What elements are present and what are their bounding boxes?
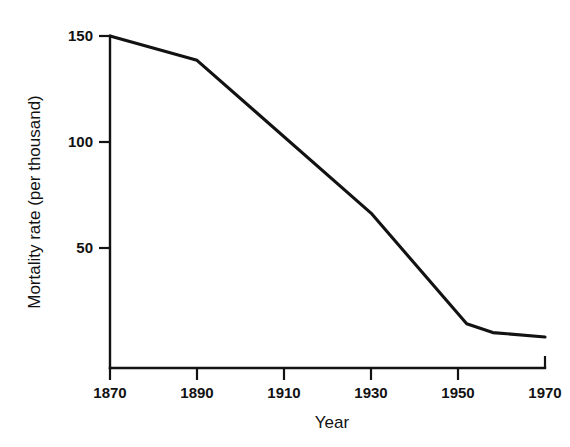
x-tick-label-1950: 1950 [441,384,474,401]
x-tick-label-1870: 1870 [93,384,126,401]
y-tick-label-100: 100 [68,133,93,150]
mortality-rate-line [110,36,545,337]
x-tick-label-1890: 1890 [180,384,213,401]
line-chart: 150 100 50 1870 1890 1910 1930 1950 1970… [0,0,570,447]
x-tick-label-1930: 1930 [354,384,387,401]
x-tick-label-1910: 1910 [267,384,300,401]
y-tick-label-150: 150 [68,27,93,44]
y-tick-label-50: 50 [76,239,93,256]
x-axis-title: Year [315,413,350,432]
y-axis-title: Mortality rate (per thousand) [25,95,44,309]
x-tick-label-1970: 1970 [528,384,561,401]
chart-figure: 150 100 50 1870 1890 1910 1930 1950 1970… [0,0,570,447]
